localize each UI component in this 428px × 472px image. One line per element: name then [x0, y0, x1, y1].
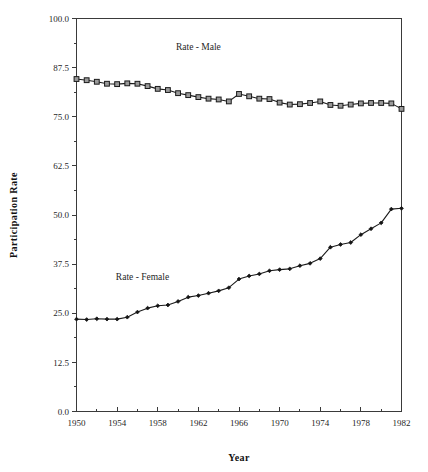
- data-point-marker: [207, 291, 211, 295]
- x-axis-tick-label: 1982: [393, 418, 411, 428]
- x-axis-tick-label: 1950: [68, 418, 87, 428]
- data-point-marker: [277, 100, 282, 105]
- data-point-marker: [247, 94, 252, 99]
- data-point-marker: [298, 102, 303, 107]
- y-axis-title: Participation Rate: [8, 172, 19, 258]
- y-axis-tick-label: 37.5: [53, 259, 69, 269]
- data-point-marker: [136, 310, 140, 314]
- x-axis-tick-label: 1954: [108, 418, 127, 428]
- x-axis-tick-label: 1974: [311, 418, 330, 428]
- series-annotations: Rate - MaleRate - Female: [116, 42, 221, 282]
- x-axis-tick-label: 1962: [189, 418, 207, 428]
- data-point-marker: [95, 317, 99, 321]
- data-point-marker: [166, 303, 170, 307]
- x-axis-tick-label: 1970: [271, 418, 290, 428]
- chart-figure: 0.012.525.037.550.062.575.087.5100.01950…: [0, 0, 428, 472]
- y-axis-tick-label: 0.0: [58, 407, 70, 417]
- data-point-marker: [216, 97, 221, 102]
- data-point-marker: [348, 102, 353, 107]
- data-point-marker: [318, 99, 323, 104]
- data-point-marker: [75, 317, 79, 321]
- data-point-marker: [105, 317, 109, 321]
- data-point-marker: [196, 294, 200, 298]
- data-point-marker: [226, 99, 231, 104]
- x-axis-tick-label: 1966: [230, 418, 249, 428]
- data-point-marker: [217, 289, 221, 293]
- data-point-marker: [247, 274, 251, 278]
- data-point-marker: [115, 317, 119, 321]
- data-point-marker: [369, 101, 374, 106]
- data-point-marker: [166, 88, 171, 93]
- y-axis-tick-label: 50.0: [53, 210, 69, 220]
- data-point-marker: [400, 206, 404, 210]
- x-axis-title: Year: [228, 452, 250, 463]
- tick-marks: [72, 19, 402, 412]
- axis-frame: [77, 19, 402, 412]
- data-point-marker: [288, 267, 292, 271]
- data-point-marker: [74, 77, 79, 82]
- data-point-marker: [84, 78, 89, 83]
- data-point-marker: [155, 86, 160, 91]
- data-point-marker: [115, 82, 120, 87]
- line-chart-canvas: 0.012.525.037.550.062.575.087.5100.01950…: [0, 0, 428, 472]
- series-male: [74, 77, 404, 112]
- y-axis-tick-label: 87.5: [53, 63, 69, 73]
- data-point-marker: [298, 264, 302, 268]
- series-female: [75, 206, 404, 321]
- y-axis-tick-label: 25.0: [53, 308, 69, 318]
- data-point-marker: [268, 269, 272, 273]
- data-point-marker: [105, 81, 110, 86]
- data-point-marker: [156, 304, 160, 308]
- data-point-marker: [278, 268, 282, 272]
- data-point-marker: [125, 81, 130, 86]
- series-line: [77, 208, 402, 319]
- data-series: [74, 77, 404, 322]
- data-point-marker: [125, 315, 129, 319]
- data-point-marker: [186, 295, 190, 299]
- data-point-marker: [146, 306, 150, 310]
- data-point-marker: [237, 92, 242, 97]
- data-point-marker: [85, 318, 89, 322]
- data-point-marker: [135, 81, 140, 86]
- data-point-marker: [267, 97, 272, 102]
- plot-frame: [77, 19, 402, 412]
- data-point-marker: [328, 103, 333, 108]
- data-point-marker: [399, 106, 404, 111]
- y-axis-tick-label: 12.5: [53, 358, 69, 368]
- data-point-marker: [176, 300, 180, 304]
- series-label-female: Rate - Female: [116, 272, 169, 282]
- data-point-marker: [389, 101, 394, 106]
- data-point-marker: [287, 102, 292, 107]
- data-point-marker: [358, 101, 363, 106]
- data-point-marker: [257, 272, 261, 276]
- x-axis-tick-label: 1958: [149, 418, 168, 428]
- data-point-marker: [94, 79, 99, 84]
- data-point-marker: [257, 96, 262, 101]
- y-axis-tick-label: 62.5: [53, 161, 69, 171]
- tick-labels: 0.012.525.037.550.062.575.087.5100.01950…: [49, 14, 411, 428]
- data-point-marker: [308, 101, 313, 106]
- data-point-marker: [196, 95, 201, 100]
- y-axis-tick-label: 100.0: [49, 14, 70, 24]
- data-point-marker: [308, 261, 312, 265]
- data-point-marker: [176, 91, 181, 96]
- series-label-male: Rate - Male: [176, 42, 221, 52]
- data-point-marker: [379, 101, 384, 106]
- x-axis-tick-label: 1978: [352, 418, 371, 428]
- data-point-marker: [145, 84, 150, 89]
- data-point-marker: [338, 103, 343, 108]
- data-point-marker: [186, 93, 191, 98]
- data-point-marker: [206, 96, 211, 101]
- data-point-marker: [339, 243, 343, 247]
- y-axis-tick-label: 75.0: [53, 112, 69, 122]
